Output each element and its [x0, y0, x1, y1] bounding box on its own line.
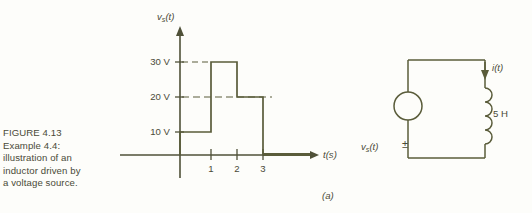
y-tick-label-30v: 30 V — [124, 56, 170, 67]
y-axis-title: vs(t) — [157, 11, 174, 24]
inductor-coil — [485, 88, 492, 144]
caption-line-5: a voltage source. — [3, 177, 115, 190]
y-tick-label-10v: 10 V — [124, 126, 170, 137]
caption-line-2: Example 4.4: — [3, 140, 115, 153]
x-tick-label-1: 1 — [201, 163, 221, 174]
x-axis — [120, 151, 319, 159]
figure-caption: FIGURE 4.13 Example 4.4: illustration of… — [3, 127, 115, 190]
source-polarity-symbol: ± — [402, 139, 408, 150]
current-label: i(t) — [492, 62, 503, 73]
source-label-arg: (t) — [369, 141, 378, 152]
voltage-source-symbol — [394, 92, 422, 120]
y-axis-arrowhead — [176, 26, 184, 36]
current-arrow — [481, 62, 489, 80]
dashed-guides — [182, 62, 272, 97]
current-label-arg: (t) — [494, 62, 503, 73]
circuit-diagram: ± vs(t) i(t) 5 H — [370, 40, 532, 180]
y-axis-title-arg: (t) — [165, 11, 174, 22]
x-axis-arrowhead — [310, 151, 319, 159]
caption-line-3: illustration of an — [3, 152, 115, 165]
circuit-wires — [408, 60, 485, 158]
plot-svg — [120, 0, 370, 213]
y-tick-label-20v: 20 V — [124, 91, 170, 102]
caption-line-4: inductor driven by — [3, 165, 115, 178]
source-label: vs(t) — [361, 141, 378, 154]
x-axis-title: t(s) — [323, 149, 337, 160]
caption-line-1: FIGURE 4.13 — [3, 127, 115, 140]
voltage-waveform-plot: vs(t) 30 V 20 V 10 V 1 2 3 t(s) (a) — [120, 0, 370, 213]
x-tick-label-2: 2 — [227, 163, 247, 174]
inductor-value-label: 5 H — [493, 108, 508, 119]
subfigure-label: (a) — [322, 190, 334, 201]
waveform-trace — [180, 62, 263, 155]
x-tick-label-3: 3 — [253, 163, 273, 174]
